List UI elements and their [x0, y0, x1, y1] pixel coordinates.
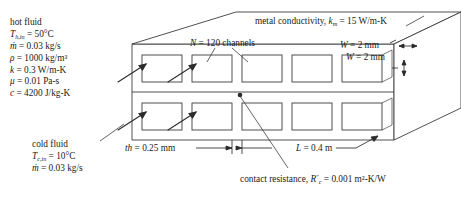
width-bottom-value: = 2 mm	[354, 52, 385, 62]
width-top-value: = 2 mm	[348, 40, 379, 50]
hot-mdot-value: = 0.03 kg/s	[17, 41, 61, 51]
viscosity-value: = 0.01 Pa-s	[15, 76, 60, 86]
density-value: = 1000 kg/m³	[14, 53, 67, 63]
metal-conductivity-value: = 15 W/m-K	[337, 16, 387, 26]
hot-fluid-line-5: c = 4200 J/kg-K	[10, 88, 70, 100]
cold-mdot-symbol: ṁ	[32, 163, 39, 173]
hot-mdot-symbol: ṁ	[10, 41, 17, 51]
metal-conductivity-prefix: metal conductivity,	[255, 16, 329, 26]
cold-fluid-line-1: ṁ = 0.03 kg/s	[32, 163, 83, 175]
length-value: = 0.4 m	[301, 143, 332, 153]
hot-temp-subscript: h,in	[15, 33, 24, 40]
cold-fluid-block: cold fluid Tc,in = 10°C ṁ = 0.03 kg/s	[32, 139, 83, 175]
hot-fluid-block: hot fluid Th,in = 50°C ṁ = 0.03 kg/s ρ …	[10, 17, 70, 100]
channels-callout: N = 120 channels	[190, 38, 255, 50]
thickness-value: = 0.25 mm	[132, 143, 175, 153]
width-bottom-callout: W = 2 mm	[346, 52, 385, 64]
hot-temp-value: = 50°C	[25, 29, 54, 39]
metal-conductivity-callout: metal conductivity, km = 15 W/m-K	[255, 16, 387, 28]
hot-fluid-line-4: μ = 0.01 Pa-s	[10, 76, 70, 88]
hot-fluid-line-3: k = 0.3 W/m-K	[10, 65, 70, 77]
length-callout: L = 0.4 m	[296, 143, 332, 155]
cold-temp-value: = 10°C	[46, 151, 75, 161]
cold-temp-subscript: c,in	[37, 155, 46, 162]
cold-fluid-heading: cold fluid	[32, 139, 83, 151]
cold-mdot-value: = 0.03 kg/s	[39, 163, 83, 173]
conductivity-value: = 0.3 W/m-K	[14, 65, 66, 75]
thickness-callout: th = 0.25 mm	[125, 143, 175, 155]
contact-resistance-prefix: contact resistance,	[240, 174, 310, 184]
contact-resistance-point	[238, 93, 243, 98]
width-top-symbol: W	[340, 40, 348, 50]
contact-resistance-value: = 0.001 m²-K/W	[321, 174, 385, 184]
hot-fluid-heading: hot fluid	[10, 17, 70, 29]
metal-conductivity-subscript: m	[333, 20, 337, 27]
cold-fluid-line-0: Tc,in = 10°C	[32, 151, 83, 163]
channels-value: = 120 channels	[196, 38, 255, 48]
hot-fluid-line-0: Th,in = 50°C	[10, 29, 70, 41]
hot-fluid-line-1: ṁ = 0.03 kg/s	[10, 41, 70, 53]
width-top-callout: W = 2 mm	[340, 40, 379, 52]
leader-cold-fluid	[100, 124, 124, 141]
contact-resistance-callout: contact resistance, R″c = 0.001 m²-K/W	[240, 174, 386, 186]
channel-row-lower	[142, 103, 382, 130]
hot-fluid-line-2: ρ = 1000 kg/m³	[10, 53, 70, 65]
width-bottom-symbol: W	[346, 52, 354, 62]
dimension-thickness	[196, 140, 272, 154]
specific-heat-value: = 4200 J/kg-K	[14, 88, 70, 98]
